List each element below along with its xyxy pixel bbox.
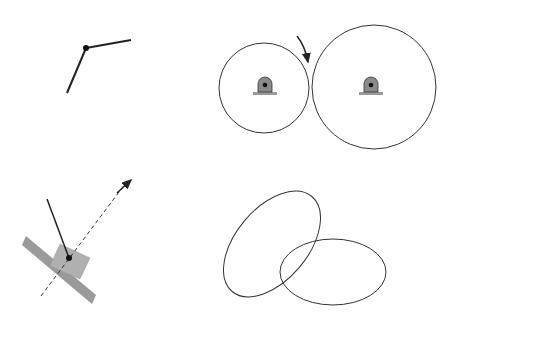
pivot-12-icon	[253, 77, 277, 95]
panel-a-first-rule	[67, 40, 131, 93]
panel-d-fourth-rule	[205, 173, 386, 314]
link-3-bar	[86, 40, 131, 48]
panel-c-third-rule	[22, 180, 131, 304]
contact-arrow	[297, 36, 308, 62]
pin-joint-23	[83, 45, 89, 51]
infinity-arrow	[117, 180, 131, 193]
pivot-13-icon	[359, 77, 383, 95]
slider-block-3	[50, 244, 90, 279]
pin-joint-23	[66, 255, 72, 261]
link-2-bar	[67, 48, 86, 93]
dashed-normal-line	[41, 180, 128, 296]
cam-2	[205, 173, 340, 314]
panel-b-second-rule	[219, 25, 436, 149]
diagram-canvas	[0, 0, 539, 359]
